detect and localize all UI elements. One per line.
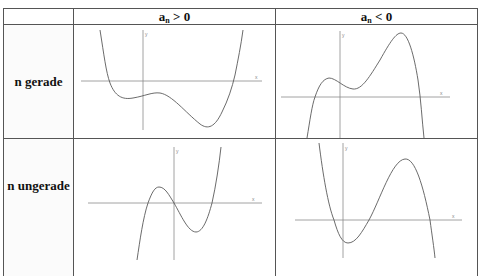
graph-odd-positive: x y (88, 147, 262, 260)
y-axis-label: y (345, 145, 348, 151)
polynomial-curve (137, 147, 221, 260)
x-axis-label: x (440, 90, 443, 96)
y-axis-label: y (176, 148, 179, 154)
function-graphs: x y x y x y x y (0, 0, 481, 276)
y-axis-label: y (342, 32, 345, 38)
x-axis-label: x (255, 74, 258, 80)
y-axis-label: y (145, 31, 148, 37)
x-axis-label: x (252, 196, 255, 202)
graph-even-negative: x y (281, 31, 450, 138)
polynomial-curve (100, 30, 243, 127)
polynomial-curve (319, 143, 435, 258)
graph-even-positive: x y (81, 30, 262, 130)
polynomial-curve (307, 33, 424, 138)
graph-odd-negative: x y (295, 143, 462, 258)
x-axis-label: x (452, 213, 455, 219)
